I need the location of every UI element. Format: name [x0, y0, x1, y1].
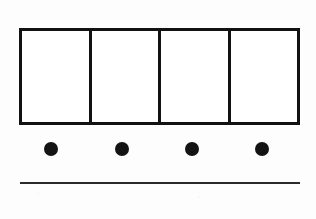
baseline-rule	[20, 182, 300, 184]
bar-model	[19, 28, 300, 125]
bar-cell-1	[22, 31, 92, 122]
counter-dot-3	[185, 142, 199, 156]
counter-dot-1	[44, 142, 58, 156]
figure-root	[0, 0, 316, 219]
bar-cell-3	[161, 31, 231, 122]
bar-cell-4	[231, 31, 298, 122]
counter-dot-2	[115, 142, 129, 156]
counter-dot-4	[255, 142, 269, 156]
counter-row	[19, 142, 300, 157]
bar-cell-2	[92, 31, 162, 122]
